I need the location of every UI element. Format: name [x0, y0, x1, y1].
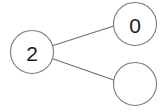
graph-svg: 2 0 — [0, 0, 164, 112]
node-bottom-right-group[interactable] — [114, 63, 157, 106]
node-top-right-group[interactable]: 0 — [114, 3, 157, 46]
node-top-right-label: 0 — [129, 14, 141, 37]
edge-left-to-top-right[interactable] — [53, 26, 115, 46]
edge-layer — [52, 26, 115, 81]
edge-left-to-bottom-right[interactable] — [52, 59, 115, 81]
node-left-group[interactable]: 2 — [11, 31, 54, 74]
node-bottom-right-circle[interactable] — [114, 63, 157, 106]
graph-canvas: 2 0 — [0, 0, 164, 112]
node-left-label: 2 — [26, 42, 38, 65]
